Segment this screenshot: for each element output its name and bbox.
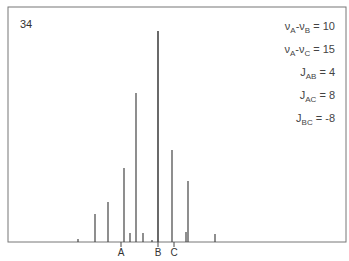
x-ticks — [121, 242, 174, 247]
x-label-c: C — [170, 247, 177, 258]
parameter-list: νA-νB = 10 νA-νC = 15 JAB = 4 JAC = 8 JB… — [284, 17, 335, 132]
param-j-bc: JBC = -8 — [284, 109, 335, 132]
param-j-ac: JAC = 8 — [284, 86, 335, 109]
spectral-lines — [78, 31, 215, 242]
param-delta-ab: νA-νB = 10 — [284, 17, 335, 40]
figure-number: 34 — [20, 18, 32, 30]
param-delta-ac: νA-νC = 15 — [284, 40, 335, 63]
x-label-b: B — [155, 247, 162, 258]
param-j-ab: JAB = 4 — [284, 63, 335, 86]
x-label-a: A — [118, 247, 125, 258]
